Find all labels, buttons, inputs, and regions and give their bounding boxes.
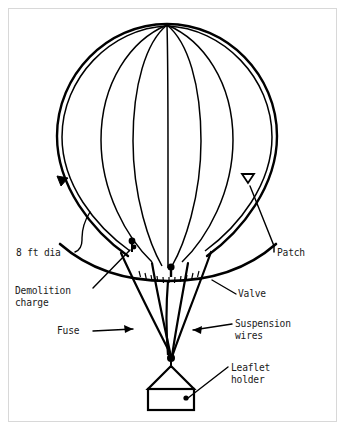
label-suspension-wires: Suspensionwires: [235, 318, 291, 341]
arrowhead-suspension-wires: [193, 326, 202, 334]
balloon-diagram: [0, 0, 347, 432]
label-demolition-charge: Demolitioncharge: [15, 285, 71, 308]
gore-seam-lines: [101, 25, 233, 268]
figure-page: 8 ft dia Demolitioncharge Fuse Patch Val…: [0, 0, 347, 432]
label-demolition-charge-line2: charge: [15, 297, 48, 308]
leader-arrowheads: [124, 325, 202, 334]
patch-marker: [242, 174, 254, 183]
leader-valve: [212, 280, 236, 294]
label-demolition-charge-line1: Demolition: [15, 285, 71, 296]
valve: [167, 263, 174, 277]
envelope-outline-inner-right: [167, 26, 272, 251]
label-leaflet-holder: Leafletholder: [231, 362, 270, 385]
label-suspension-wires-line1: Suspension: [235, 318, 291, 329]
label-suspension-wires-line2: wires: [235, 330, 263, 341]
arrowhead-fuse: [124, 325, 133, 333]
label-valve: Valve: [238, 288, 266, 300]
label-leaflet-holder-line2: holder: [231, 374, 264, 385]
leader-leaflet-holder: [188, 367, 228, 398]
label-patch: Patch: [277, 247, 305, 259]
balloon-envelope: [57, 24, 277, 283]
label-diameter: 8 ft dia: [16, 247, 61, 259]
fuse-line: [167, 281, 169, 355]
label-fuse: Fuse: [57, 325, 79, 337]
leaflet-holder: [148, 366, 194, 410]
envelope-outline-inner-left: [62, 26, 167, 251]
label-leaflet-holder-line1: Leaflet: [231, 362, 270, 373]
